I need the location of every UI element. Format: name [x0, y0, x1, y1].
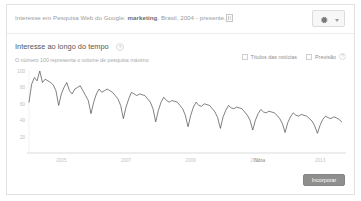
- forecast-checkbox[interactable]: [306, 54, 312, 60]
- breadcrumb: Interesse em Pesquisa Web do Google: mar…: [15, 14, 226, 21]
- header-suffix: , Brasil, 2004 - presente.: [157, 14, 225, 21]
- chevron-down-icon: [335, 19, 339, 22]
- header-prefix: Interesse em Pesquisa Web do Google:: [15, 14, 126, 21]
- y-axis-tick-label: 100: [17, 69, 25, 74]
- y-axis-tick-label: 80: [20, 85, 26, 90]
- help-icon[interactable]: ?: [116, 43, 124, 51]
- x-axis-tick-label: 2009: [186, 158, 197, 163]
- trends-chart[interactable]: 1008060402020052007200920112013: [7, 67, 354, 175]
- toggle-news-headlines[interactable]: Títulos das notícias: [242, 54, 297, 60]
- chart-canvas[interactable]: 1008060402020052007200920112013: [7, 67, 354, 175]
- chart-line-marketing: [29, 71, 342, 133]
- chart-annotation-nota[interactable]: Nota: [254, 157, 265, 163]
- settings-button[interactable]: [312, 10, 345, 27]
- x-axis-tick-label: 2007: [121, 158, 132, 163]
- embed-button[interactable]: Incorporar: [303, 174, 345, 186]
- header-keyword: marketing: [127, 14, 157, 21]
- y-axis-tick-label: 20: [20, 135, 26, 140]
- page-title: Interesse ao longo do tempo: [15, 42, 109, 51]
- google-trends-panel: Interesse em Pesquisa Web do Google: mar…: [0, 0, 361, 201]
- y-axis-tick-label: 60: [20, 102, 26, 107]
- x-axis-tick-label: 2005: [56, 158, 67, 163]
- news-headlines-checkbox[interactable]: [242, 54, 248, 60]
- card-header: Interesse em Pesquisa Web do Google: mar…: [7, 5, 354, 34]
- news-headlines-label: Títulos das notícias: [251, 54, 297, 60]
- x-axis-tick-label: 2013: [315, 158, 326, 163]
- forecast-label: Previsão: [315, 54, 336, 60]
- embed-icon[interactable]: [226, 14, 233, 22]
- trends-card: Interesse em Pesquisa Web do Google: mar…: [6, 4, 355, 195]
- y-axis-tick-label: 40: [20, 118, 26, 123]
- forecast-info-icon[interactable]: ?: [339, 53, 346, 60]
- gear-icon: [319, 15, 329, 25]
- page-subtitle: O número 100 representa o volume de pesq…: [15, 57, 149, 63]
- chart-options: Títulos das notícias Previsão ?: [242, 53, 346, 60]
- toggle-forecast[interactable]: Previsão ?: [306, 53, 346, 60]
